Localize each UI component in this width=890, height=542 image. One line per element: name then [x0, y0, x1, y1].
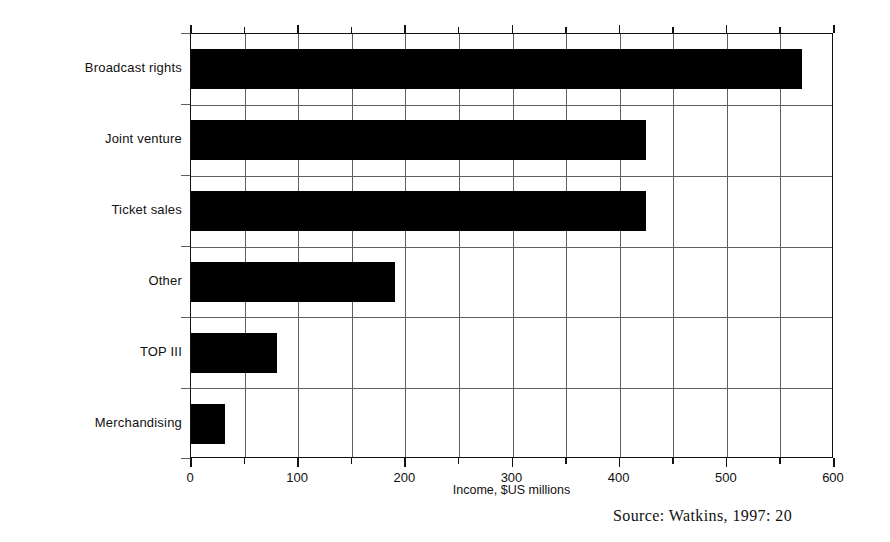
- category-axis-labels: Broadcast rightsJoint ventureTicket sale…: [0, 33, 182, 458]
- gridline-horizontal: [191, 247, 832, 248]
- x-axis-tick-minor: [351, 458, 353, 464]
- x-axis-tick-top: [619, 25, 621, 33]
- gridline-horizontal: [191, 176, 832, 177]
- category-label: Broadcast rights: [2, 61, 182, 75]
- bar: [191, 262, 395, 302]
- category-label: Joint venture: [2, 132, 182, 146]
- source-note: Source: Watkins, 1997: 20: [613, 507, 792, 525]
- x-axis-tick-top: [351, 27, 353, 33]
- gridline-vertical: [352, 34, 353, 457]
- x-axis-tick-top: [297, 25, 299, 33]
- x-axis-tick-major: [190, 458, 192, 467]
- x-axis-tick-major: [619, 458, 621, 467]
- x-axis-tick-top: [833, 25, 835, 33]
- gridline-horizontal: [191, 317, 832, 318]
- x-axis-tick-major: [404, 458, 406, 467]
- gridline-vertical: [566, 34, 567, 457]
- bar: [191, 120, 646, 160]
- category-label: TOP III: [2, 345, 182, 359]
- x-axis-tick-minor: [565, 458, 567, 464]
- x-axis-tick-top: [244, 27, 246, 33]
- x-axis-tick-major: [512, 458, 514, 467]
- gridline-horizontal: [191, 105, 832, 106]
- gridline-vertical: [459, 34, 460, 457]
- gridline-vertical: [513, 34, 514, 457]
- x-axis-tick-top: [512, 25, 514, 33]
- bar: [191, 404, 225, 444]
- bar: [191, 49, 802, 89]
- plot-area: [190, 33, 833, 458]
- x-axis-tick-minor: [779, 458, 781, 464]
- x-axis-title: Income, $US millions: [190, 483, 833, 497]
- x-axis-tick-minor: [458, 458, 460, 464]
- x-axis-tick-top: [565, 27, 567, 33]
- x-axis-tick-minor: [244, 458, 246, 464]
- x-axis-tick-top: [779, 27, 781, 33]
- gridline-vertical: [673, 34, 674, 457]
- category-label: Merchandising: [2, 416, 182, 430]
- x-axis-tick-top: [726, 25, 728, 33]
- bar: [191, 333, 277, 373]
- x-axis-tick-minor: [672, 458, 674, 464]
- x-axis-tick-top: [404, 25, 406, 33]
- x-axis-tick-major: [297, 458, 299, 467]
- category-label: Ticket sales: [2, 203, 182, 217]
- gridline-vertical: [298, 34, 299, 457]
- gridline-vertical: [620, 34, 621, 457]
- gridline-horizontal: [191, 388, 832, 389]
- x-axis-tick-major: [726, 458, 728, 467]
- gridline-vertical: [727, 34, 728, 457]
- bar: [191, 191, 646, 231]
- bar-chart-figure: Broadcast rightsJoint ventureTicket sale…: [0, 0, 890, 542]
- x-axis-tick-major: [833, 458, 835, 467]
- x-axis-tick-top: [458, 27, 460, 33]
- x-axis-tick-top: [190, 25, 192, 33]
- gridline-vertical: [405, 34, 406, 457]
- category-label: Other: [2, 274, 182, 288]
- gridline-vertical: [245, 34, 246, 457]
- x-axis-tick-top: [672, 27, 674, 33]
- gridline-vertical: [780, 34, 781, 457]
